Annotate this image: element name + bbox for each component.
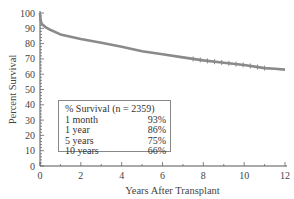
- legend-title: % Survival (n = 2359): [65, 104, 166, 115]
- y-tick-label: 80: [25, 38, 35, 49]
- x-axis-title: Years After Transplant: [125, 185, 220, 196]
- x-tick-label: 8: [201, 170, 206, 181]
- y-tick-label: 100: [20, 8, 35, 19]
- x-tick-label: 12: [280, 170, 290, 181]
- y-axis-title: Percent Survival: [7, 55, 18, 125]
- y-tick-label: 50: [25, 84, 35, 95]
- y-tick-label: 40: [25, 99, 35, 110]
- x-tick-label: 10: [239, 170, 249, 181]
- x-tick-label: 4: [119, 170, 124, 181]
- x-tick-label: 0: [38, 170, 43, 181]
- y-tick-label: 30: [25, 115, 35, 126]
- legend-value: 66%: [148, 146, 166, 157]
- survival-legend-box: % Survival (n = 2359) 1 month 93% 1 year…: [58, 100, 171, 152]
- x-tick-label: 2: [78, 170, 83, 181]
- survival-curve: [40, 13, 285, 70]
- y-tick-label: 0: [30, 161, 35, 172]
- legend-label: 10 years: [65, 146, 99, 157]
- y-tick-label: 10: [25, 145, 35, 156]
- y-tick-label: 70: [25, 53, 35, 64]
- x-tick-label: 6: [160, 170, 165, 181]
- y-tick-label: 20: [25, 130, 35, 141]
- legend-row: 10 years 66%: [65, 146, 166, 157]
- y-tick-label: 90: [25, 23, 35, 34]
- y-tick-label: 60: [25, 69, 35, 80]
